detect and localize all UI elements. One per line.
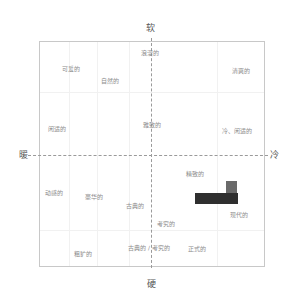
word-label: 冷、闲适的 xyxy=(222,128,252,134)
grid-line xyxy=(97,42,98,266)
word-label: 闲适的 xyxy=(48,126,66,132)
vertical-axis xyxy=(151,38,152,268)
axis-label-top: 软 xyxy=(146,24,155,33)
axis-label-left: 暖 xyxy=(19,151,28,160)
diagram-frame xyxy=(39,41,265,267)
word-label: 可爱的 xyxy=(62,66,80,72)
word-label: 现代的 xyxy=(230,212,248,218)
word-label: 粗犷的 xyxy=(74,251,92,257)
word-label: 动感的 xyxy=(45,190,63,196)
horizontal-axis xyxy=(28,155,268,156)
grid-line xyxy=(40,92,264,93)
word-label: 古典的 / 考究的 xyxy=(128,245,170,251)
grid-line xyxy=(69,42,70,266)
word-label: 自然的 xyxy=(101,78,119,84)
gray-block xyxy=(226,181,237,193)
grid-line xyxy=(129,42,130,266)
word-label: 考究的 xyxy=(157,221,175,227)
word-label: 清爽的 xyxy=(232,68,250,74)
axis-label-bottom: 硬 xyxy=(147,280,156,289)
word-label: 古典的 xyxy=(126,203,144,209)
word-label: 浪漫的 xyxy=(141,50,159,56)
word-label: 正式的 xyxy=(188,246,206,252)
dark-block xyxy=(195,193,238,204)
word-label: 精致的 xyxy=(186,171,204,177)
axis-label-right: 冷 xyxy=(270,151,279,160)
grid-line xyxy=(40,230,264,231)
word-label: 豪华的 xyxy=(85,194,103,200)
grid-line xyxy=(217,42,218,266)
word-label: 雅致的 xyxy=(143,122,161,128)
